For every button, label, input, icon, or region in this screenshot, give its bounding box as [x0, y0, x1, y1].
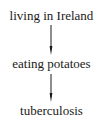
arrow-living-to-potatoes — [50, 25, 53, 55]
arrowhead-icon — [50, 46, 53, 55]
arrowhead-icon — [50, 93, 53, 102]
edges-layer — [0, 0, 103, 124]
arrow-potatoes-to-tuberculosis — [50, 74, 53, 102]
